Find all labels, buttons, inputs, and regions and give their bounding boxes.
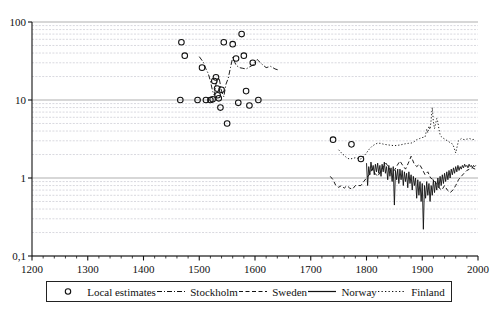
y-tick-label: 100 bbox=[10, 16, 27, 28]
dotted-line-icon bbox=[377, 286, 407, 297]
legend-label-finland: Finland bbox=[411, 286, 445, 298]
legend-item-sweden[interactable]: Sweden bbox=[238, 286, 307, 298]
x-tick-label: 1500 bbox=[188, 263, 211, 275]
series-norway bbox=[367, 162, 476, 229]
legend-item-norway[interactable]: Norway bbox=[307, 286, 376, 298]
legend-label-local-estimates: Local estimates bbox=[87, 286, 156, 298]
dash-dot-line-icon bbox=[156, 286, 186, 297]
legend-item-finland[interactable]: Finland bbox=[377, 286, 445, 298]
open-circle-icon bbox=[53, 286, 83, 297]
series-finland bbox=[339, 108, 476, 159]
gridlines bbox=[32, 22, 478, 256]
chart-root: 1001010,11200130014001500160017001800190… bbox=[0, 0, 498, 309]
legend-label-sweden: Sweden bbox=[272, 286, 307, 298]
legend-label-norway: Norway bbox=[341, 286, 376, 298]
legend-item-local-estimates[interactable]: Local estimates bbox=[53, 286, 156, 298]
x-tick-label: 1600 bbox=[244, 263, 267, 275]
x-tick-label: 1700 bbox=[300, 263, 323, 275]
y-tick-label: 1 bbox=[21, 172, 27, 184]
x-tick-label: 1200 bbox=[21, 263, 44, 275]
axes: 1001010,11200130014001500160017001800190… bbox=[10, 16, 490, 275]
x-tick-label: 1400 bbox=[133, 263, 156, 275]
chart-legend: Local estimates Stockholm Sweden Norway … bbox=[46, 281, 452, 302]
y-tick-label: 10 bbox=[15, 94, 27, 106]
x-tick-label: 2000 bbox=[467, 263, 490, 275]
chart-svg: 1001010,11200130014001500160017001800190… bbox=[0, 0, 498, 280]
solid-line-icon bbox=[307, 286, 337, 297]
legend-label-stockholm: Stockholm bbox=[190, 286, 238, 298]
legend-item-stockholm[interactable]: Stockholm bbox=[156, 286, 238, 298]
series-local-estimates bbox=[177, 31, 363, 162]
y-tick-label: 0,1 bbox=[12, 250, 26, 262]
x-tick-label: 1300 bbox=[77, 263, 100, 275]
dashed-line-icon bbox=[238, 286, 268, 297]
x-tick-label: 1900 bbox=[411, 263, 434, 275]
plot-area: 1001010,11200130014001500160017001800190… bbox=[0, 0, 498, 280]
x-tick-label: 1800 bbox=[356, 263, 379, 275]
